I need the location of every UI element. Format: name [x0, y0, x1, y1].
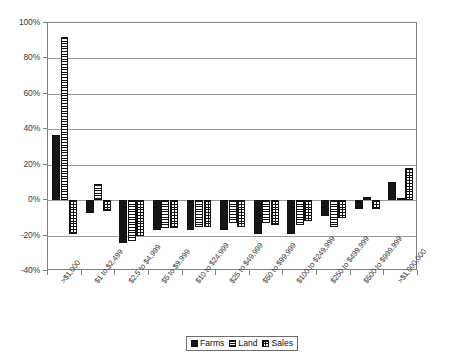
bar-farms	[254, 200, 262, 234]
bar-land	[397, 198, 405, 200]
bar-sales	[304, 200, 312, 221]
bar-group	[317, 23, 351, 269]
bar-farms	[153, 200, 161, 230]
bar-farms	[187, 200, 195, 230]
bar-sales	[271, 200, 279, 225]
legend-label: Sales	[271, 338, 293, 348]
bar-group	[384, 23, 418, 269]
bar-farms	[287, 200, 295, 234]
bar-land	[363, 197, 371, 201]
y-axis-tick-label: 80%	[0, 52, 40, 62]
bar-sales	[69, 200, 77, 234]
y-axis-tick-label: 100%	[0, 17, 40, 27]
bar-farms	[220, 200, 228, 230]
y-axis-tick-label: 60%	[0, 88, 40, 98]
bar-land	[128, 200, 136, 241]
bar-group	[250, 23, 284, 269]
bar-sales	[136, 200, 144, 235]
x-axis-tick-mark	[81, 270, 82, 275]
bar-land	[296, 200, 304, 225]
legend-item-sales: Sales	[262, 338, 293, 348]
bar-sales	[204, 200, 212, 227]
legend-item-land: Land	[229, 338, 257, 348]
bar-land	[94, 184, 102, 200]
legend-item-farms: Farms	[191, 338, 224, 348]
x-axis-tick-mark	[182, 270, 183, 275]
y-axis-tick-label: -40%	[0, 265, 40, 275]
bar-sales	[170, 200, 178, 228]
x-axis-tick-mark	[249, 270, 250, 275]
bar-farms	[119, 200, 127, 243]
legend-swatch-land-icon	[229, 340, 236, 347]
legend-swatch-farms-icon	[191, 340, 198, 347]
bar-sales	[405, 168, 413, 200]
bar-land	[330, 200, 338, 227]
bar-farms	[86, 200, 94, 212]
x-axis-tick-mark	[350, 270, 351, 275]
bar-farms	[355, 200, 363, 209]
bar-group	[216, 23, 250, 269]
bar-farms	[321, 200, 329, 216]
y-axis-tick-label: 0%	[0, 194, 40, 204]
bar-group	[283, 23, 317, 269]
bar-chart: 100%80%60%40%20%0%-20%-40% >$1,000$1 to …	[0, 0, 451, 362]
y-axis-tick-label: 40%	[0, 123, 40, 133]
x-axis-tick-mark	[148, 270, 149, 275]
x-axis-tick-mark	[215, 270, 216, 275]
bar-farms	[52, 135, 60, 201]
plot-area	[47, 22, 417, 270]
bar-land	[161, 200, 169, 228]
bar-land	[61, 37, 69, 200]
bar-land	[262, 200, 270, 223]
y-axis-tick-label: 20%	[0, 159, 40, 169]
bar-group	[351, 23, 385, 269]
bar-group	[183, 23, 217, 269]
x-axis-tick-mark	[316, 270, 317, 275]
x-axis-tick-mark	[47, 270, 48, 275]
x-axis-tick-mark	[383, 270, 384, 275]
bar-sales	[237, 200, 245, 227]
bar-group	[115, 23, 149, 269]
bar-land	[195, 200, 203, 227]
legend-swatch-sales-icon	[262, 340, 269, 347]
bar-farms	[388, 182, 396, 200]
bar-sales	[338, 200, 346, 218]
chart-legend: FarmsLandSales	[186, 336, 298, 351]
bar-group	[149, 23, 183, 269]
bar-sales	[103, 200, 111, 211]
y-axis-tick-label: -20%	[0, 230, 40, 240]
bar-group	[82, 23, 116, 269]
x-axis-tick-mark	[282, 270, 283, 275]
x-axis-tick-mark	[114, 270, 115, 275]
legend-label: Land	[238, 338, 257, 348]
x-axis-tick-mark	[417, 270, 418, 275]
legend-label: Farms	[200, 338, 224, 348]
bar-sales	[372, 200, 380, 209]
bar-group	[48, 23, 82, 269]
bar-land	[229, 200, 237, 223]
